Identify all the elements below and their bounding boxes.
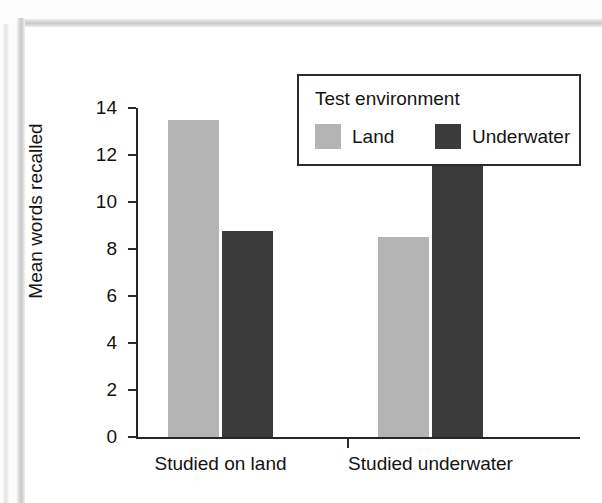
y-axis-tick-mark bbox=[128, 389, 136, 391]
legend-entry-land: Land bbox=[315, 124, 394, 149]
y-axis-tick-mark bbox=[128, 295, 136, 297]
bar-land-studied-on-land bbox=[168, 120, 219, 437]
legend-label-land: Land bbox=[352, 126, 394, 148]
y-axis-tick-label: 4 bbox=[83, 333, 117, 352]
scanned-page: Mean words recalled 02468101214Studied o… bbox=[0, 0, 602, 503]
y-axis-tick-label: 0 bbox=[83, 427, 117, 446]
legend-label-underwater: Underwater bbox=[472, 126, 570, 148]
legend-swatch-land bbox=[315, 124, 341, 149]
legend: Test environment Land Underwater bbox=[297, 74, 581, 166]
x-axis-group-separator-tick bbox=[347, 438, 349, 448]
bar-underwater-studied-underwater bbox=[432, 164, 483, 437]
legend-title: Test environment bbox=[315, 88, 460, 110]
y-axis-tick-label: 2 bbox=[83, 380, 117, 399]
bar-chart-figure: Mean words recalled 02468101214Studied o… bbox=[0, 0, 602, 503]
y-axis-tick-label: 10 bbox=[83, 192, 117, 211]
y-axis-tick-mark bbox=[128, 154, 136, 156]
y-axis-tick-mark bbox=[128, 248, 136, 250]
legend-swatch-underwater bbox=[435, 124, 461, 149]
y-axis-tick-mark bbox=[128, 201, 136, 203]
y-axis-tick-label: 14 bbox=[83, 98, 117, 117]
x-axis-line bbox=[136, 437, 580, 439]
y-axis-tick-label: 8 bbox=[83, 239, 117, 258]
bar-underwater-studied-on-land bbox=[222, 231, 273, 437]
y-axis-title: Mean words recalled bbox=[25, 91, 47, 331]
legend-entry-underwater: Underwater bbox=[435, 124, 570, 149]
x-axis-category-label: Studied underwater bbox=[301, 453, 561, 475]
bar-land-studied-underwater bbox=[378, 237, 429, 437]
y-axis-tick-label: 12 bbox=[83, 145, 117, 164]
y-axis-tick-label: 6 bbox=[83, 286, 117, 305]
y-axis-line bbox=[136, 108, 138, 437]
y-axis-tick-mark bbox=[128, 436, 136, 438]
y-axis-tick-mark bbox=[128, 107, 136, 109]
y-axis-tick-mark bbox=[128, 342, 136, 344]
